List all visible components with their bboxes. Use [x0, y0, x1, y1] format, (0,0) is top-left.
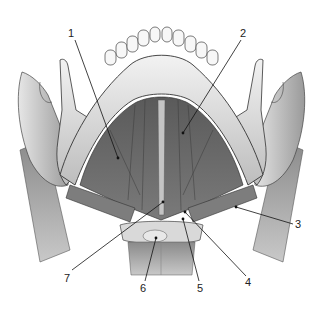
- svg-text:1: 1: [68, 27, 74, 39]
- median-raphe: [158, 100, 165, 215]
- svg-text:6: 6: [140, 282, 146, 294]
- anatomy-illustration: 1 2 3 4 5 6 7: [0, 0, 323, 316]
- svg-text:3: 3: [295, 218, 301, 230]
- infrahyoid-muscles: [128, 242, 195, 275]
- svg-text:4: 4: [245, 276, 251, 288]
- svg-text:7: 7: [64, 272, 70, 284]
- svg-text:5: 5: [197, 282, 203, 294]
- svg-text:2: 2: [240, 27, 246, 39]
